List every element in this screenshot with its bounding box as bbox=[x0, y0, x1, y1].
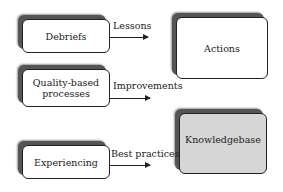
quality-processes-box: Quality-based processes bbox=[22, 69, 110, 107]
debriefs-box: Debriefs bbox=[22, 19, 110, 53]
lessons-label: Lessons bbox=[113, 20, 151, 31]
experiencing-label: Experiencing bbox=[34, 157, 98, 168]
best-practices-label: Best practices bbox=[111, 148, 180, 159]
quality-processes-label: Quality-based processes bbox=[31, 77, 101, 99]
lessons-arrow bbox=[110, 37, 148, 38]
knowledgebase-box: Knowledgebase bbox=[179, 113, 267, 174]
debriefs-label: Debriefs bbox=[46, 31, 87, 42]
actions-label: Actions bbox=[204, 43, 240, 54]
actions-box: Actions bbox=[176, 17, 268, 79]
experiencing-box: Experiencing bbox=[22, 145, 110, 179]
improvements-arrow bbox=[110, 98, 150, 99]
best-practices-arrow bbox=[110, 165, 150, 166]
knowledgebase-label: Knowledgebase bbox=[185, 134, 261, 145]
improvements-label: Improvements bbox=[113, 80, 183, 91]
